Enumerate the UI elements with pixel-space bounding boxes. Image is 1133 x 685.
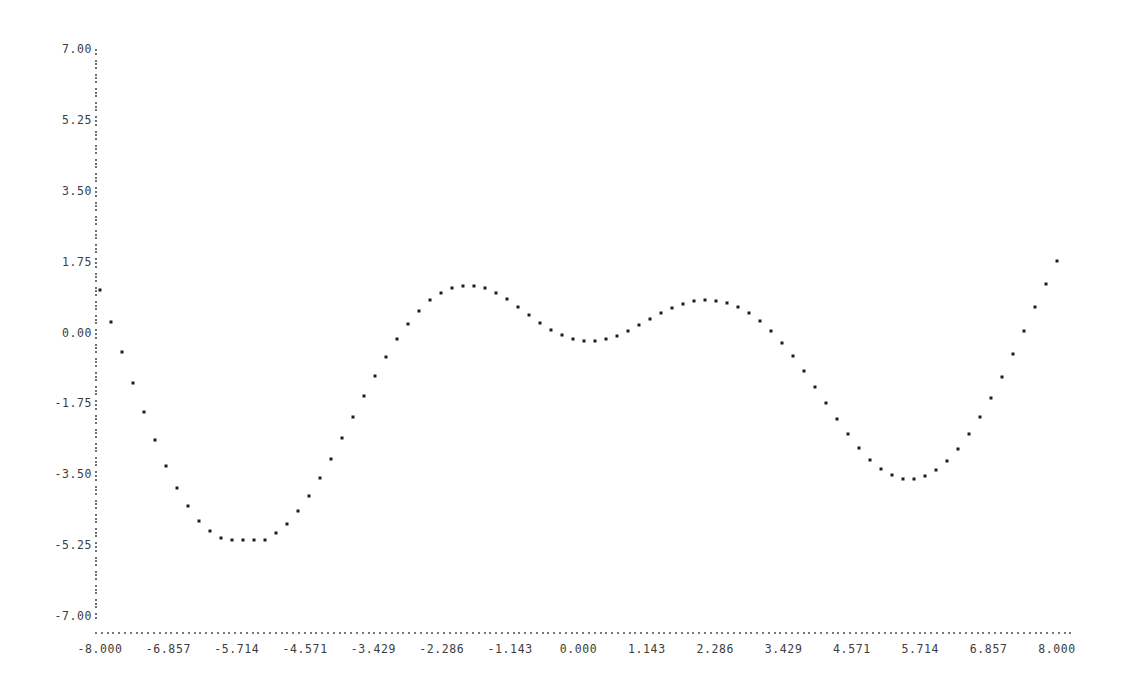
data-point <box>352 416 355 419</box>
x-axis-tick-dot <box>339 632 341 634</box>
x-axis-tick-dot <box>182 632 184 634</box>
y-axis-tick-dot <box>95 191 97 193</box>
data-point <box>638 324 641 327</box>
y-tick-label: 0.00 <box>62 328 92 340</box>
data-point <box>264 539 267 542</box>
x-axis-tick-dot <box>310 632 312 634</box>
data-point <box>132 382 135 385</box>
x-axis-tick-dot <box>913 632 915 634</box>
y-axis-tick-dot <box>95 606 97 608</box>
y-axis-tick-dot <box>95 503 97 505</box>
data-point <box>583 340 586 343</box>
x-axis-tick-dot <box>617 632 619 634</box>
x-axis-tick-dot <box>971 632 973 634</box>
x-axis-tick-dot <box>768 632 770 634</box>
y-axis-tick-dot <box>95 138 97 140</box>
x-axis-tick-dot <box>640 632 642 634</box>
data-point <box>660 312 663 315</box>
x-axis-tick-dot <box>524 632 526 634</box>
x-axis-tick-dot <box>426 632 428 634</box>
y-axis-tick-dot <box>95 429 97 431</box>
y-axis-tick-dot <box>95 464 97 466</box>
y-axis-tick-dot <box>95 393 97 395</box>
y-axis-tick-dot <box>95 102 97 104</box>
x-tick-label: -2.286 <box>419 644 464 656</box>
y-tick-label: -1.75 <box>54 399 92 411</box>
y-axis-tick-dot <box>95 322 97 324</box>
data-point <box>187 505 190 508</box>
data-point <box>198 520 201 523</box>
x-axis-tick-dot <box>611 632 613 634</box>
x-axis-tick-dot <box>530 632 532 634</box>
y-axis-tick-dot <box>95 177 97 179</box>
y-axis-tick-dot <box>95 152 97 154</box>
x-axis-tick-dot <box>948 632 950 634</box>
data-point <box>517 306 520 309</box>
x-axis-tick-dot <box>350 632 352 634</box>
y-axis-tick-dot <box>95 248 97 250</box>
x-axis-tick-dot <box>333 632 335 634</box>
x-axis-tick-dot <box>518 632 520 634</box>
x-axis-tick-dot <box>542 632 544 634</box>
x-axis-tick-dot <box>269 632 271 634</box>
data-point <box>110 321 113 324</box>
x-axis-tick-dot <box>234 632 236 634</box>
data-point <box>990 397 993 400</box>
y-axis-tick-dot <box>95 262 97 264</box>
y-axis-tick-dot <box>95 532 97 534</box>
data-point <box>341 437 344 440</box>
x-tick-label: -8.000 <box>77 644 122 656</box>
x-axis-tick-dot <box>576 632 578 634</box>
y-axis-tick-dot <box>95 574 97 576</box>
x-axis-tick-dot <box>895 632 897 634</box>
y-axis-tick-dot <box>95 564 97 566</box>
x-axis-tick-dot <box>849 632 851 634</box>
y-axis-tick-dot <box>95 528 97 530</box>
y-axis-tick-dot <box>95 163 97 165</box>
x-axis-tick-dot <box>785 632 787 634</box>
data-point <box>781 342 784 345</box>
y-axis-tick-dot <box>95 514 97 516</box>
data-point <box>726 302 729 305</box>
y-axis-tick-dot <box>95 195 97 197</box>
data-point <box>319 477 322 480</box>
x-axis-tick-dot <box>739 632 741 634</box>
y-axis-tick-dot <box>95 404 97 406</box>
x-axis-tick-dot <box>101 632 103 634</box>
x-axis-tick-dot <box>710 632 712 634</box>
x-axis-tick-dot <box>176 632 178 634</box>
x-axis-tick-dot <box>1058 632 1060 634</box>
data-point <box>594 340 597 343</box>
x-axis-tick-dot <box>837 632 839 634</box>
x-axis-tick-dot <box>199 632 201 634</box>
x-axis-tick-dot <box>704 632 706 634</box>
data-point <box>165 465 168 468</box>
x-axis-tick-dot <box>1000 632 1002 634</box>
y-axis-tick-dot <box>95 329 97 331</box>
data-point <box>858 447 861 450</box>
data-point <box>869 459 872 462</box>
data-point <box>649 318 652 321</box>
x-axis-tick-dot <box>588 632 590 634</box>
x-axis-tick-dot <box>994 632 996 634</box>
y-axis-tick-dot <box>95 613 97 615</box>
data-point <box>308 495 311 498</box>
x-axis-tick-dot <box>240 632 242 634</box>
data-point <box>770 330 773 333</box>
x-axis-tick-dot <box>414 632 416 634</box>
data-point <box>715 300 718 303</box>
data-point <box>363 395 366 398</box>
y-axis-tick-dot <box>95 134 97 136</box>
y-axis-tick-dot <box>95 120 97 122</box>
x-tick-label: 6.857 <box>970 644 1008 656</box>
x-axis-tick-dot <box>733 632 735 634</box>
x-axis-tick-dot <box>942 632 944 634</box>
y-axis-tick-dot <box>95 109 97 111</box>
y-axis-tick-dot <box>95 305 97 307</box>
x-axis-tick-dot <box>634 632 636 634</box>
x-axis-tick-dot <box>582 632 584 634</box>
x-axis-tick-dot <box>600 632 602 634</box>
data-point <box>902 478 905 481</box>
x-axis-tick-dot <box>953 632 955 634</box>
x-axis-tick-dot <box>663 632 665 634</box>
